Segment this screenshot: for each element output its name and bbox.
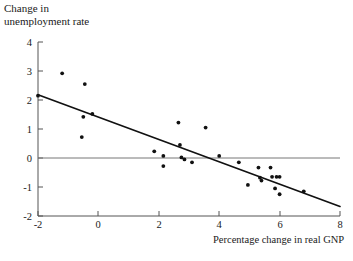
x-tick-label-2: 2: [156, 219, 161, 230]
x-tick-label-0: 0: [95, 219, 100, 230]
data-point: [161, 164, 165, 168]
data-point: [246, 183, 250, 187]
data-point: [161, 154, 165, 158]
y-axis-ticks: [38, 42, 43, 216]
y-tick-label-3: 3: [27, 66, 32, 77]
data-point: [273, 187, 277, 191]
data-point: [190, 160, 194, 164]
data-point: [177, 121, 181, 125]
data-point-group: [36, 71, 306, 196]
data-point: [83, 82, 87, 86]
plot-area: 4 3 2 1 0 -1 -2 -2 0 2 4 6 8: [0, 0, 353, 261]
y-tick-label-2: 2: [27, 95, 32, 106]
x-tick-label-minus2: -2: [34, 219, 43, 230]
regression-line: [38, 95, 340, 207]
y-axis-tick-labels: 4 3 2 1 0 -1 -2: [23, 37, 33, 222]
x-axis-label: Percentage change in real GNP: [213, 234, 344, 246]
data-point: [269, 166, 273, 170]
x-axis-tick-labels: -2 0 2 4 6 8: [34, 219, 343, 230]
data-point: [217, 154, 221, 158]
data-point: [183, 158, 187, 162]
x-tick-label-8: 8: [337, 219, 342, 230]
data-point: [60, 71, 64, 75]
data-point: [237, 160, 241, 164]
y-tick-label-minus1: -1: [23, 182, 32, 193]
data-point: [260, 179, 264, 183]
data-point: [278, 192, 282, 196]
x-tick-label-4: 4: [216, 219, 222, 230]
data-point: [80, 135, 84, 139]
data-point: [204, 126, 208, 130]
y-tick-label-0: 0: [27, 153, 32, 164]
data-point: [278, 175, 282, 179]
y-tick-label-4: 4: [27, 37, 33, 48]
data-point: [152, 149, 156, 153]
y-tick-label-minus2: -2: [23, 211, 32, 222]
y-tick-label-1: 1: [27, 124, 32, 135]
data-point: [270, 175, 274, 179]
okun-law-scatter-figure: Change in unemployment rate 4 3 2 1 0 -1…: [0, 0, 353, 261]
data-point: [36, 94, 40, 98]
data-point: [90, 112, 94, 116]
data-point: [302, 189, 306, 193]
x-tick-label-6: 6: [277, 219, 282, 230]
data-point: [257, 166, 261, 170]
x-axis-ticks: [38, 211, 340, 216]
data-point: [81, 115, 85, 119]
data-point: [178, 143, 182, 147]
